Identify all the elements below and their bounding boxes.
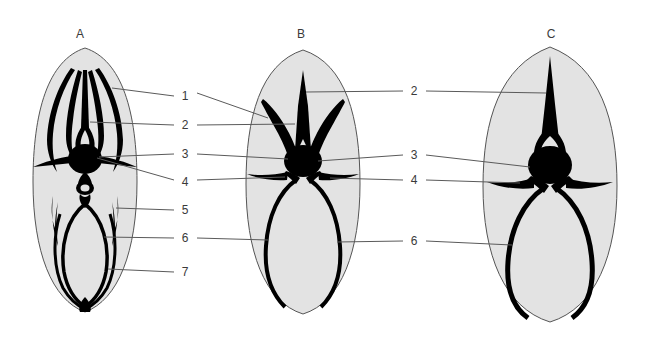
- callout-label-6: 6: [182, 231, 189, 245]
- panel-a-letter: A: [76, 27, 84, 41]
- callout-label-3: 3: [182, 147, 189, 161]
- callout-label-r4: 4: [411, 173, 418, 187]
- callout-label-7: 7: [182, 265, 189, 279]
- panel-b-central-mass: [284, 145, 322, 177]
- panel-b-letter: B: [297, 27, 305, 41]
- callout-label-r2: 2: [411, 84, 418, 98]
- panel-c-letter: C: [547, 27, 556, 41]
- callout-label-5: 5: [182, 203, 189, 217]
- anatomical-figure: A B: [0, 0, 649, 339]
- callout-label-r6: 6: [411, 234, 418, 248]
- callout-label-r3: 3: [411, 148, 418, 162]
- callout-label-4: 4: [182, 175, 189, 189]
- panel-a-sub-knot-lumen: [81, 185, 90, 192]
- callout-label-2: 2: [182, 118, 189, 132]
- panel-a-central-mass: [68, 144, 102, 174]
- callout-label-1: 1: [182, 89, 189, 103]
